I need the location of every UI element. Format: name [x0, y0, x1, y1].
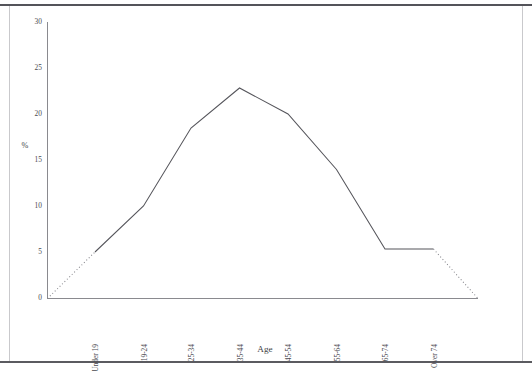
y-tick-labels: 30 25 20 15 10 5 0: [35, 17, 43, 302]
y-axis-title: %: [22, 141, 29, 150]
series-left-tail-dotted: [48, 252, 96, 299]
line-chart: 30 25 20 15 10 5 0 % Under 19 19-24 25-3…: [0, 0, 532, 371]
y-tick-label: 25: [35, 63, 43, 72]
x-tick-label: 55-64: [333, 344, 342, 362]
y-tick-label: 0: [38, 293, 42, 302]
series-right-tail-dotted: [434, 249, 479, 299]
y-tick-label: 15: [35, 155, 43, 164]
series-line-solid: [95, 88, 434, 252]
x-tick-label: 65-74: [381, 344, 390, 362]
x-tick-label: 25-34: [187, 344, 196, 362]
chart-canvas: 30 25 20 15 10 5 0 % Under 19 19-24 25-3…: [0, 0, 532, 371]
x-tick-label: 35-44: [236, 344, 245, 362]
y-tick-label: 30: [35, 17, 43, 26]
x-tick-label: Under 19: [91, 344, 100, 371]
y-tick-label: 10: [35, 201, 43, 210]
x-tick-label: 19-24: [140, 344, 149, 362]
y-tick-label: 5: [38, 247, 42, 256]
x-tick-label: 45-54: [284, 344, 293, 362]
y-tick-label: 20: [35, 109, 43, 118]
x-axis-title: Age: [257, 344, 272, 354]
axes-group: [48, 22, 479, 299]
x-tick-label: Over 74: [430, 344, 439, 368]
